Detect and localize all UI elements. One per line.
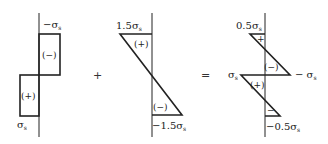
region-bottom: − (267, 105, 275, 115)
linear-distribution (120, 34, 182, 115)
figure-result-stress: 0.5σs + (−) σs − σs (+) − −0.5σs (228, 13, 316, 137)
label-bottom: −1.5σs (152, 120, 186, 132)
region-lower: (+) (21, 91, 36, 101)
region-lower: (+) (250, 80, 265, 90)
label-top: −σs (43, 19, 61, 31)
label-bottom: −0.5σs (266, 121, 300, 133)
region-upper: (−) (42, 50, 57, 60)
plus-operator: + (93, 69, 102, 82)
region-upper: (+) (134, 39, 149, 49)
stress-superposition-diagram: −σs (−) (+) σs + 1.5σs (+) (−) −1.5σs = … (0, 0, 328, 144)
figure-uniform-stress: −σs (−) (+) σs (17, 13, 61, 137)
figure-linear-stress: 1.5σs (+) (−) −1.5σs (116, 13, 186, 137)
region-upper: (−) (264, 62, 279, 72)
equals-operator: = (201, 69, 210, 82)
label-mid-right: − σs (295, 69, 316, 81)
label-bottom: σs (17, 119, 27, 131)
region-lower: (−) (153, 102, 168, 112)
region-top: + (257, 34, 265, 44)
label-mid-left: σs (228, 69, 238, 81)
label-top: 1.5σs (116, 20, 142, 32)
label-top: 0.5σs (236, 20, 262, 32)
